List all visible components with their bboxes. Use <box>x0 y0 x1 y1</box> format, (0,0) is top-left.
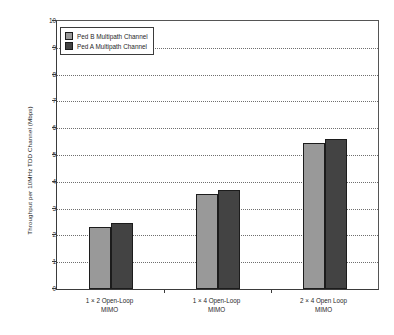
gridline <box>57 101 378 102</box>
category-label-line2: MIMO <box>270 305 377 314</box>
x-axis-category-label: 2 × 4 Open LoopMIMO <box>270 296 377 314</box>
y-axis-title: Throughput per 10MHz TDD Channel (Mbps) <box>26 71 33 271</box>
gridline <box>57 128 378 129</box>
bar-0-1 <box>196 194 218 289</box>
legend-swatch-icon <box>65 42 73 50</box>
legend-item: Ped B Multipath Channel <box>65 31 148 41</box>
x-axis-category-label: 1 × 2 Open-LoopMIMO <box>56 296 163 314</box>
bar-1-0 <box>111 223 133 289</box>
legend-label: Ped A Multipath Channel <box>77 43 147 50</box>
legend-item: Ped A Multipath Channel <box>65 41 148 51</box>
category-label-line1: 2 × 4 Open Loop <box>300 297 347 304</box>
legend-label: Ped B Multipath Channel <box>77 33 148 40</box>
x-axis-category-label: 1 × 4 Open-LoopMIMO <box>163 296 270 314</box>
x-axis-separator <box>164 289 165 293</box>
bar-chart-figure: Throughput per 10MHz TDD Channel (Mbps) … <box>0 0 394 335</box>
category-label-line1: 1 × 4 Open-Loop <box>193 297 240 304</box>
category-label-line1: 1 × 2 Open-Loop <box>86 297 133 304</box>
bar-1-1 <box>218 190 240 289</box>
plot-area <box>56 20 379 290</box>
x-axis-separator <box>271 289 272 293</box>
bar-0-0 <box>89 227 111 289</box>
chart-legend: Ped B Multipath ChannelPed A Multipath C… <box>60 27 154 55</box>
bar-0-2 <box>303 143 325 289</box>
legend-swatch-icon <box>65 32 73 40</box>
category-label-line2: MIMO <box>163 305 270 314</box>
gridline <box>57 75 378 76</box>
bar-1-2 <box>325 139 347 289</box>
category-label-line2: MIMO <box>56 305 163 314</box>
